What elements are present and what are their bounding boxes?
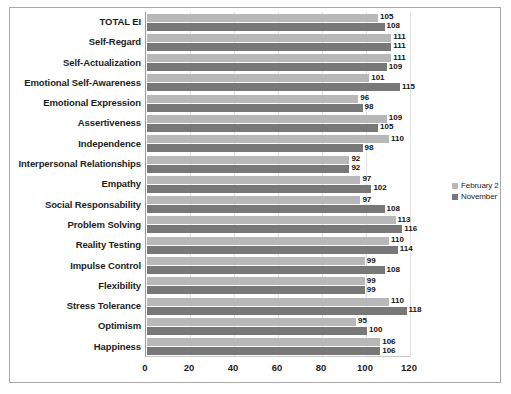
x-tick-label: 40 — [228, 362, 239, 373]
legend-item: February 2 — [452, 180, 511, 191]
chart-row: Empathy97102 — [146, 174, 410, 194]
bar-value-label: 96 — [358, 94, 369, 102]
category-label: Self-Regard — [89, 32, 141, 52]
chart-row: TOTAL EI105108 — [146, 12, 410, 32]
bar-value-label: 100 — [367, 326, 382, 334]
category-label: Flexibility — [98, 276, 141, 296]
bar-value-label: 105 — [378, 13, 393, 21]
bar-value-label: 111 — [391, 33, 405, 41]
bar-nov — [147, 124, 378, 132]
bar-nov — [147, 225, 402, 233]
chart-row: Self-Regard111111 — [146, 32, 410, 52]
bar-value-label: 111 — [391, 54, 405, 62]
x-tick-label: 120 — [401, 362, 417, 373]
bar-value-label: 102 — [371, 184, 386, 192]
x-tick-label: 80 — [316, 362, 327, 373]
category-label: Interpersonal Relationships — [19, 154, 141, 174]
bar-nov — [147, 185, 371, 193]
chart-legend: February 2November — [452, 180, 511, 202]
bar-value-label: 101 — [369, 74, 384, 82]
bar-feb — [147, 216, 396, 224]
bar-nov — [147, 43, 391, 51]
bar-feb — [147, 257, 365, 265]
bar-nov — [147, 286, 365, 294]
category-label: Assertiveness — [78, 113, 141, 133]
bar-value-label: 110 — [389, 135, 404, 143]
chart-row: Self-Actualization111109 — [146, 53, 410, 73]
bar-value-label: 105 — [378, 123, 393, 131]
bar-value-label: 97 — [360, 175, 371, 183]
x-tick-label: 100 — [357, 362, 373, 373]
category-label: Emotional Self-Awareness — [24, 73, 141, 93]
bar-feb — [147, 115, 387, 123]
bar-value-label: 106 — [380, 338, 395, 346]
emotional-intelligence-bar-chart: TOTAL EI105108Self-Regard111111Self-Actu… — [0, 0, 511, 394]
category-label: Impulse Control — [70, 256, 141, 276]
bar-value-label: 110 — [389, 297, 404, 305]
bar-nov — [147, 23, 385, 31]
bar-nov — [147, 83, 400, 91]
legend-swatch-icon — [452, 183, 458, 189]
bar-nov — [147, 246, 398, 254]
bar-feb — [147, 135, 389, 143]
bar-value-label: 99 — [365, 257, 376, 265]
bar-value-label: 98 — [363, 144, 374, 152]
bar-value-label: 108 — [385, 205, 400, 213]
legend-swatch-icon — [452, 194, 458, 200]
bar-nov — [147, 205, 385, 213]
chart-row: Assertiveness109105 — [146, 113, 410, 133]
bar-value-label: 108 — [385, 22, 400, 30]
category-label: Stress Tolerance — [67, 296, 141, 316]
bar-value-label: 99 — [365, 286, 376, 294]
bar-feb — [147, 34, 391, 42]
x-tick-label: 20 — [184, 362, 195, 373]
bar-value-label: 108 — [385, 266, 400, 274]
bar-feb — [147, 54, 391, 62]
bar-feb — [147, 277, 365, 285]
bar-value-label: 116 — [402, 225, 417, 233]
bar-nov — [147, 347, 380, 355]
chart-row: Emotional Expression9698 — [146, 93, 410, 113]
bar-feb — [147, 95, 358, 103]
bar-feb — [147, 14, 378, 22]
chart-row: Interpersonal Relationships9292 — [146, 154, 410, 174]
bar-value-label: 106 — [380, 347, 395, 355]
legend-label: November — [461, 192, 497, 201]
chart-row: Impulse Control99108 — [146, 256, 410, 276]
category-label: Reality Testing — [76, 235, 141, 255]
category-label: Happiness — [94, 337, 141, 357]
bar-nov — [147, 104, 363, 112]
bar-value-label: 98 — [363, 103, 374, 111]
bar-value-label: 97 — [360, 196, 371, 204]
bar-value-label: 109 — [387, 114, 402, 122]
category-label: Problem Solving — [68, 215, 141, 235]
bar-value-label: 99 — [365, 277, 376, 285]
chart-row: Happiness106106 — [146, 337, 410, 357]
chart-row: Flexibility9999 — [146, 276, 410, 296]
bar-feb — [147, 156, 349, 164]
bar-value-label: 114 — [398, 245, 413, 253]
bar-value-label: 111 — [391, 42, 405, 50]
bar-nov — [147, 266, 385, 274]
bar-feb — [147, 237, 389, 245]
legend-item: November — [452, 191, 511, 202]
bar-value-label: 92 — [349, 164, 360, 172]
bar-feb — [147, 74, 369, 82]
category-label: Independence — [78, 134, 141, 154]
category-label: Self-Actualization — [63, 53, 141, 73]
bar-value-label: 92 — [349, 155, 360, 163]
bar-feb — [147, 196, 360, 204]
x-tick-label: 60 — [272, 362, 283, 373]
bar-nov — [147, 63, 387, 71]
chart-row: Independence11098 — [146, 134, 410, 154]
chart-row: Optimism95100 — [146, 316, 410, 336]
chart-row: Emotional Self-Awareness101115 — [146, 73, 410, 93]
chart-row: Reality Testing110114 — [146, 235, 410, 255]
bar-value-label: 95 — [356, 317, 367, 325]
category-label: Emotional Expression — [43, 93, 141, 113]
bar-value-label: 115 — [400, 83, 415, 91]
bar-feb — [147, 298, 389, 306]
bar-feb — [147, 318, 356, 326]
bar-nov — [147, 327, 367, 335]
bar-feb — [147, 338, 380, 346]
